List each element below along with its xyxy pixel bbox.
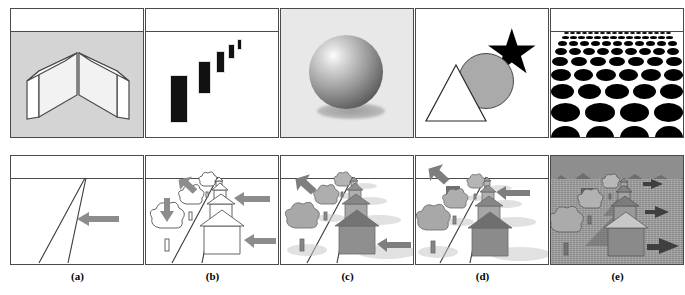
texture-gradient-field: [551, 32, 683, 137]
panel-labels: (a) (b) (c) (d) (e): [10, 270, 685, 282]
size-bar-3: [216, 51, 225, 73]
bottom-row: [10, 155, 685, 265]
label-d: (d): [415, 270, 550, 282]
arrow-group: [281, 156, 414, 265]
top-row: ★: [10, 8, 685, 138]
texture-row: [551, 32, 683, 34]
texture-row: [551, 41, 683, 46]
label-c: (c): [280, 270, 415, 282]
size-bar-2: [198, 61, 211, 94]
arrow-group: [416, 156, 549, 265]
panel-top-e: [550, 8, 684, 138]
panel-bottom-e: [550, 155, 684, 265]
label-b: (b): [145, 270, 280, 282]
panel-bottom-d: [415, 155, 549, 265]
texture-row: [551, 103, 683, 122]
shaded-sphere-icon: [309, 35, 383, 109]
arrow-icon: [77, 211, 119, 227]
arrow-group: [146, 156, 279, 265]
texture-row: [551, 36, 683, 39]
panel-top-d: ★: [415, 8, 549, 138]
panel-bottom-a: [10, 155, 144, 265]
triangle-icon: [424, 63, 488, 129]
horizon-line: [146, 31, 278, 32]
panel-top-b: [145, 8, 279, 138]
size-bar-4: [228, 44, 235, 59]
panel-top-c: [280, 8, 414, 138]
panel-bottom-b: [145, 155, 279, 265]
sky-region: [146, 9, 278, 31]
size-bar-1: [170, 75, 188, 123]
size-bar-5: [237, 39, 242, 50]
panel-bottom-c: [280, 155, 414, 265]
depth-cue-figure: ★: [0, 0, 685, 295]
slab-right-icon: [75, 51, 131, 121]
panel-top-a: [10, 8, 144, 138]
texture-row: [551, 84, 683, 99]
slab-left-icon: [25, 51, 81, 121]
sky-region: [551, 9, 683, 31]
sky-region: [11, 9, 143, 31]
label-e: (e): [550, 270, 685, 282]
arrow-group: [551, 156, 684, 265]
texture-row: [551, 48, 683, 55]
label-a: (a): [10, 270, 145, 282]
texture-row: [551, 126, 683, 137]
texture-row: [551, 57, 683, 66]
texture-row: [551, 69, 683, 81]
